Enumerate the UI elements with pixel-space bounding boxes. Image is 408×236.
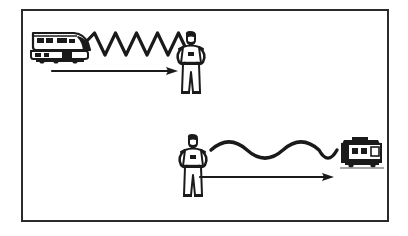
- train-window: [69, 39, 75, 43]
- train-approaching-icon: [31, 33, 90, 64]
- train-window: [57, 38, 67, 43]
- person-shirt-detail: [188, 52, 194, 56]
- train-wheel: [53, 58, 58, 63]
- railcar-vent: [352, 137, 368, 140]
- train-carriage-door: [62, 52, 72, 58]
- person-shoe: [181, 91, 190, 94]
- train-window: [37, 38, 44, 43]
- railcar-window: [352, 148, 358, 154]
- train-wheel: [72, 58, 77, 63]
- person-face: [188, 37, 194, 43]
- railcar-wheel: [370, 162, 375, 167]
- train-carriage-window: [35, 53, 41, 57]
- train-wheel: [39, 58, 44, 63]
- railcar-lower-band: [342, 159, 381, 162]
- train-receding-icon: [340, 137, 384, 168]
- train-carriage-window: [44, 53, 49, 57]
- train-window: [46, 38, 53, 43]
- person-shoe: [183, 194, 192, 197]
- person-shoe: [194, 194, 203, 197]
- railcar-wheel: [348, 162, 353, 167]
- doppler-effect-figure: Doppler effect illustration Source appro…: [0, 0, 408, 236]
- person-face: [190, 140, 196, 146]
- diagram-canvas: [0, 0, 408, 236]
- railcar-window: [361, 148, 367, 154]
- person-shoe: [192, 91, 201, 94]
- person-shirt-detail: [190, 155, 196, 159]
